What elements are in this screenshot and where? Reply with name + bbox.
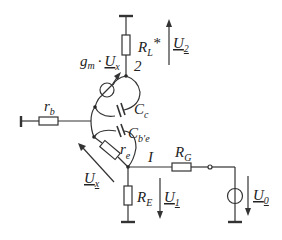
source-voltage-label: U0 xyxy=(253,187,269,206)
load-resistor-label: RL* xyxy=(137,35,161,58)
transconductance-label: gm·Ux xyxy=(80,53,120,72)
collector-cap xyxy=(121,103,125,115)
input-voltage-label: U1 xyxy=(164,189,180,208)
emitter-resistor-ext xyxy=(124,186,132,205)
circuit-diagram: RL* U2 2 gm·Ux rb Cc Cb'e re Ux I RG RE … xyxy=(0,0,282,240)
generator-resistor xyxy=(172,163,191,171)
emitter-resistor-label: re xyxy=(120,141,131,161)
terminal-icon xyxy=(208,165,212,169)
node-2-label: 2 xyxy=(134,58,142,74)
output-voltage-label: U2 xyxy=(173,35,189,54)
emitter-resistor-ext-label: RE xyxy=(136,189,152,208)
collector-cap-label: Cc xyxy=(134,101,149,120)
be-cap xyxy=(121,124,125,135)
generator-resistor-label: RG xyxy=(174,144,191,163)
load-resistor xyxy=(122,35,130,55)
base-resistor xyxy=(39,117,58,125)
control-voltage-label: Ux xyxy=(84,170,100,189)
be-cap-label: Cb'e xyxy=(128,125,150,144)
base-resistor-label: rb xyxy=(44,98,55,117)
current-label: I xyxy=(147,149,154,165)
emitter-resistor xyxy=(100,141,120,160)
